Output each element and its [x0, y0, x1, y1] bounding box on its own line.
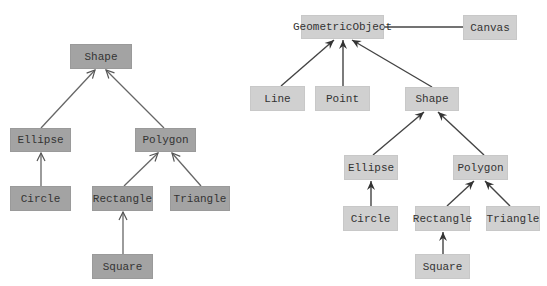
edge-rectangle-polygon: [447, 181, 474, 206]
class-box-square: Square: [415, 254, 470, 279]
class-label: Polygon: [142, 134, 188, 146]
class-label: Square: [423, 261, 463, 273]
class-label: Canvas: [470, 22, 510, 34]
class-label: Shape: [415, 93, 448, 105]
class-box-polygon: Polygon: [135, 128, 196, 152]
edge-shape-geometricobject: [352, 40, 432, 87]
edge-rectangle-polygon: [124, 153, 158, 186]
class-box-shape: Shape: [70, 44, 132, 69]
class-box-square: Square: [92, 254, 153, 279]
edge-line-geometricobject: [281, 40, 334, 86]
class-box-rectangle: Rectangle: [415, 206, 470, 231]
class-label: Polygon: [457, 162, 503, 174]
class-box-rectangle: Rectangle: [92, 186, 153, 211]
class-box-line: Line: [250, 86, 305, 111]
class-label: Ellipse: [348, 162, 394, 174]
class-box-shape: Shape: [405, 87, 459, 111]
class-box-triangle: Triangle: [486, 206, 540, 231]
class-box-circle: Circle: [343, 206, 398, 231]
class-box-triangle: Triangle: [170, 186, 230, 211]
edge-ellipse-shape: [41, 70, 95, 128]
class-label: Square: [103, 261, 143, 273]
edge-triangle-polygon: [485, 181, 510, 206]
class-label: Ellipse: [17, 134, 63, 146]
class-label: Circle: [351, 213, 391, 225]
class-label: GeometricObject: [293, 21, 392, 33]
class-label: Triangle: [487, 213, 540, 225]
class-label: Point: [326, 93, 359, 105]
class-box-ellipse: Ellipse: [344, 155, 398, 180]
class-box-canvas: Canvas: [463, 15, 517, 40]
class-label: Rectangle: [93, 193, 152, 205]
class-label: Line: [264, 93, 290, 105]
class-box-polygon: Polygon: [453, 155, 508, 180]
class-label: Shape: [84, 51, 117, 63]
class-box-circle: Circle: [10, 186, 71, 211]
class-label: Triangle: [174, 193, 227, 205]
class-box-ellipse: Ellipse: [10, 128, 71, 152]
edge-polygon-shape: [106, 70, 164, 128]
edge-ellipse-shape: [373, 112, 424, 155]
class-box-geometricobject: GeometricObject: [301, 15, 384, 39]
edge-triangle-polygon: [172, 153, 201, 186]
class-box-point: Point: [315, 86, 370, 111]
edge-polygon-shape: [438, 112, 484, 155]
class-label: Circle: [21, 193, 61, 205]
edges-layer: [0, 0, 547, 286]
class-label: Rectangle: [413, 213, 472, 225]
